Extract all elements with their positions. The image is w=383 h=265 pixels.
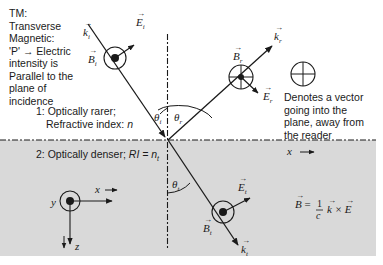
formula-rhs: → → k × E: [327, 203, 352, 215]
k-reflected-label: →kr: [274, 30, 282, 45]
medium-2-ri-symbol: RI = n: [129, 148, 157, 160]
axis-y-label: y: [51, 196, 56, 208]
k-transmitted-label: →kt: [241, 243, 248, 258]
axis-z-label: z: [75, 240, 79, 252]
reflected-ray: [168, 46, 272, 140]
medium-1-ri-text: Refractive index:: [46, 118, 127, 130]
formula-denominator: c: [316, 210, 320, 221]
into-plane-note-line: plane, away from: [284, 116, 364, 129]
formula-equals: =: [304, 198, 310, 210]
tm-note: TM: Transverse Magnetic: 'P' → Electric …: [9, 7, 73, 107]
medium-2-text: 2: Optically denser;: [36, 148, 129, 160]
tm-note-line: 'P' → Electric: [9, 45, 73, 58]
tm-note-line: Parallel to the: [9, 70, 73, 83]
medium-1-line1: 1: Optically rarer;: [36, 105, 133, 118]
formula-b-equals-k-cross-e: →B =: [295, 198, 311, 210]
b-incident-label: →Bi: [88, 53, 97, 68]
axis-x-label: x: [95, 183, 100, 195]
theta-i-label: θi: [154, 111, 161, 126]
tm-polarization-diagram: TM: Transverse Magnetic: 'P' → Electric …: [0, 0, 383, 265]
b-reflected-label: →Br: [233, 50, 242, 65]
medium-2-ri-subscript: t: [157, 155, 159, 162]
e-transmitted-label: →Et: [238, 181, 247, 196]
into-plane-note: Denotes a vector going into the plane, a…: [284, 91, 364, 141]
k-incident-label: →ki: [83, 26, 90, 41]
into-plane-symbol-icon: [291, 62, 315, 86]
e-reflected-label: →Er: [263, 90, 272, 105]
tm-note-line: TM:: [9, 7, 73, 20]
medium-1-line2: Refractive index: n: [36, 118, 133, 131]
tm-note-line: plane of: [9, 82, 73, 95]
tm-note-line: intensity is: [9, 57, 73, 70]
e-reflected-arrow: [241, 77, 258, 93]
medium-1-ri-symbol: n: [127, 118, 133, 130]
b-transmitted-label: →Bt: [203, 222, 212, 237]
interface-x-label: x: [287, 145, 292, 157]
formula-numerator: 1: [317, 198, 322, 209]
medium-1-label: 1: Optically rarer; Refractive index: n: [36, 105, 133, 130]
theta-r-label: θr: [174, 111, 182, 126]
tm-note-line: Magnetic:: [9, 32, 73, 45]
theta-t-label: θt: [172, 178, 179, 193]
e-incident-label: →Ei: [136, 16, 145, 31]
formula-lhs: →B: [295, 198, 302, 210]
into-plane-note-line: Denotes a vector: [284, 91, 364, 104]
medium-2-label: 2: Optically denser; RI = nt: [36, 148, 159, 166]
into-plane-note-line: going into the: [284, 104, 364, 117]
tm-note-line: Transverse: [9, 20, 73, 33]
into-plane-note-line: the reader: [284, 129, 364, 142]
